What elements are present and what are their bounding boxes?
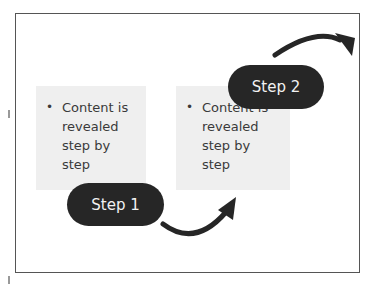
curved-arrow-icon xyxy=(275,33,355,56)
arrows-layer xyxy=(0,0,370,291)
curved-arrow-icon xyxy=(163,197,236,234)
